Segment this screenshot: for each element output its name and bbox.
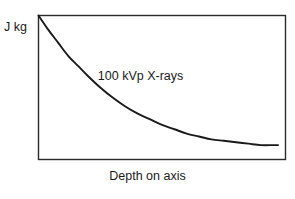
plot-frame xyxy=(39,16,286,160)
y-axis-label: J kg xyxy=(4,21,27,34)
depth-dose-figure: J kg 100 kVp X-rays Depth on axis xyxy=(0,0,295,199)
x-axis-label: Depth on axis xyxy=(0,170,295,183)
curve-annotation-label: 100 kVp X-rays xyxy=(98,70,183,83)
